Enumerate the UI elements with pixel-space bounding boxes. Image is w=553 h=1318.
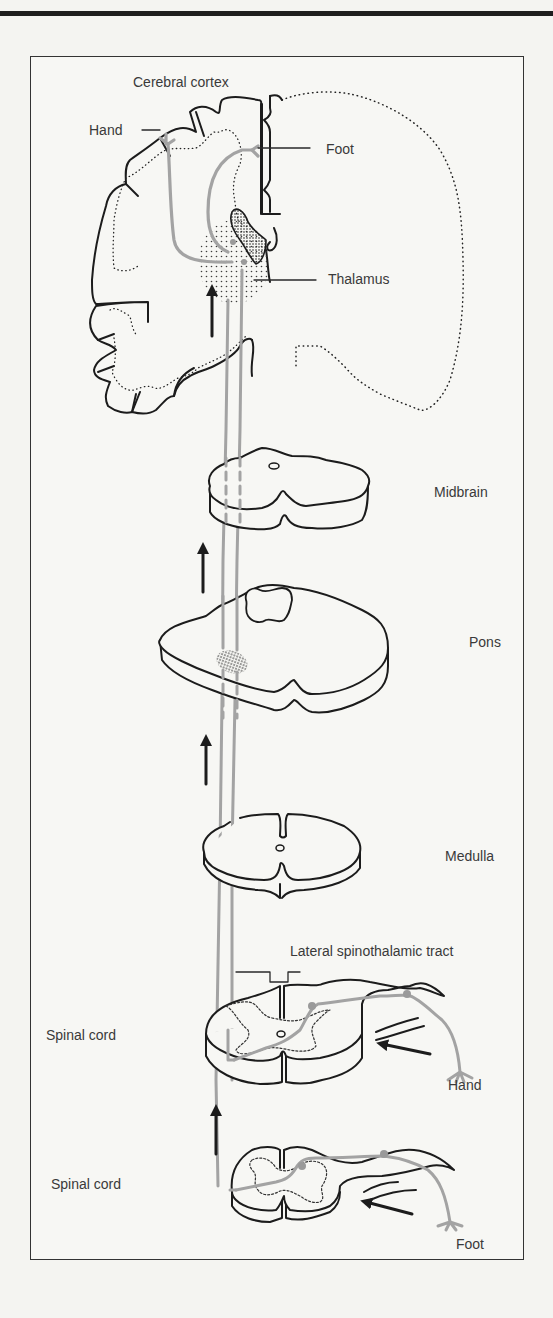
- medulla-section: [203, 814, 360, 898]
- label-spinal-cord-lower: Spinal cord: [51, 1176, 121, 1192]
- midbrain-section: [209, 448, 369, 529]
- label-hand-cortex: Hand: [89, 122, 122, 138]
- label-cerebral-cortex: Cerebral cortex: [133, 74, 229, 90]
- foot-input-arrow: [366, 1202, 412, 1214]
- pons-section: [159, 585, 388, 712]
- label-medulla: Medulla: [445, 848, 494, 864]
- label-lateral-spinothalamic-tract: Lateral spinothalamic tract: [290, 943, 453, 959]
- spinothalamic-pathway-diagram: [0, 0, 553, 1318]
- label-hand-periphery: Hand: [448, 1077, 481, 1093]
- label-foot-periphery: Foot: [456, 1236, 484, 1252]
- label-midbrain: Midbrain: [434, 484, 488, 500]
- label-pons: Pons: [469, 634, 501, 650]
- label-foot-cortex: Foot: [326, 141, 354, 157]
- label-thalamus: Thalamus: [328, 271, 389, 287]
- opposite-hemisphere-outline: [282, 92, 463, 410]
- label-spinal-cord-upper: Spinal cord: [46, 1027, 116, 1043]
- hand-input-arrow: [382, 1044, 430, 1054]
